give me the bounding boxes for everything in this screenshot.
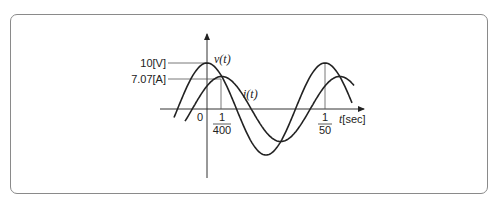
v-curve-label: v(t) [214,52,231,66]
origin-label: 0 [197,111,203,123]
tick-1-50-num: 1 [322,111,328,123]
x-axis-label: t[sec] [339,112,366,126]
tick-1-400-num: 1 [219,111,225,123]
waveform-diagram: 10[V] 7.07[A] v(t) i(t) 0 1 400 1 50 t[s… [0,0,499,206]
tick-1-400-den: 400 [213,124,231,136]
i-curve-label: i(t) [243,87,258,101]
i-peak-label: 7.07[A] [131,73,166,85]
v-peak-label: 10[V] [140,57,166,69]
x-axis-unit: [sec] [342,113,365,125]
tick-1-50-den: 50 [319,124,331,136]
